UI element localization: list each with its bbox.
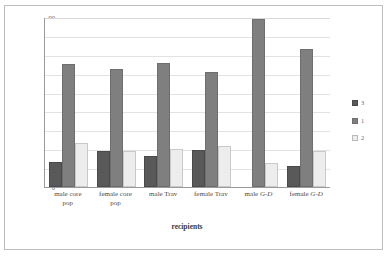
- legend-label: 2: [361, 135, 364, 142]
- bar-3-3[interactable]: [144, 156, 157, 187]
- bar-group: [140, 18, 188, 187]
- x-axis-title: recipients: [44, 222, 330, 231]
- bar-3-1[interactable]: [49, 162, 62, 187]
- x-axis-tick-label: male Trav: [139, 190, 187, 208]
- plot-area: [44, 18, 330, 188]
- legend-swatch-icon: [352, 100, 358, 106]
- bar-1-6[interactable]: [300, 49, 313, 187]
- bar-group: [188, 18, 236, 187]
- bar-3-2[interactable]: [97, 151, 110, 187]
- x-axis-tick-label: male G-D: [235, 190, 283, 208]
- bar-1-4[interactable]: [205, 72, 218, 187]
- bar-3-4[interactable]: [192, 150, 205, 187]
- bar-1-5[interactable]: [252, 19, 265, 187]
- legend-item-3[interactable]: 3: [352, 100, 364, 107]
- legend-item-2[interactable]: 2: [352, 135, 364, 142]
- bar-2-2[interactable]: [123, 151, 136, 187]
- bar-2-4[interactable]: [218, 146, 231, 187]
- bar-1-2[interactable]: [110, 69, 123, 187]
- bar-group: [45, 18, 93, 187]
- chart-figure: percentage of pairs 0102030405060708090 …: [0, 0, 388, 256]
- legend-swatch-icon: [352, 135, 358, 141]
- bar-1-3[interactable]: [157, 63, 170, 187]
- bar-2-5[interactable]: [265, 163, 278, 187]
- bar-2-6[interactable]: [313, 151, 326, 187]
- x-axis-tick-labels: male corepopfemale corepopmale Travfemal…: [44, 190, 330, 208]
- bar-3-6[interactable]: [287, 166, 300, 187]
- chart-legend: 312: [352, 100, 364, 142]
- bar-group: [93, 18, 141, 187]
- bar-2-1[interactable]: [75, 143, 88, 187]
- x-axis-tick-label: female Trav: [187, 190, 235, 208]
- bar-groups: [45, 18, 330, 187]
- bar-2-3[interactable]: [170, 149, 183, 187]
- bar-group: [283, 18, 331, 187]
- legend-item-1[interactable]: 1: [352, 118, 364, 125]
- legend-swatch-icon: [352, 118, 358, 124]
- bar-group: [235, 18, 283, 187]
- x-axis-tick-label: female corepop: [92, 190, 140, 208]
- x-axis-tick-label: male corepop: [44, 190, 92, 208]
- legend-label: 3: [361, 100, 364, 107]
- bar-1-1[interactable]: [62, 64, 75, 187]
- x-axis-tick-label: female G-D: [282, 190, 330, 208]
- legend-label: 1: [361, 118, 364, 125]
